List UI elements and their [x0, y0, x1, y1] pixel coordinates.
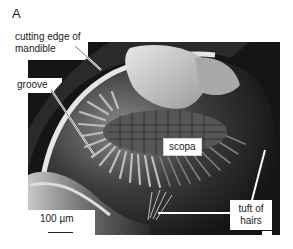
panel-letter: A	[12, 6, 21, 21]
label-scopa: scopa	[163, 138, 202, 156]
label-groove: groove	[14, 78, 51, 93]
scale-bar	[48, 232, 73, 233]
label-cutting-edge-of-mandible: cutting edge of mandible	[13, 30, 87, 56]
scale-bar-label: 100 µm	[40, 213, 74, 224]
label-tuft-of-hairs: tuft of hairs	[230, 200, 272, 230]
